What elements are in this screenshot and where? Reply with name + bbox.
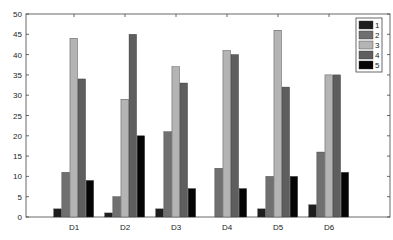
y-tick-label: 25: [13, 112, 22, 121]
legend-swatch: [359, 31, 373, 39]
legend-swatch: [359, 51, 373, 59]
bar: [78, 79, 86, 217]
y-tick-label: 15: [13, 152, 22, 161]
bar: [129, 34, 137, 217]
bar: [137, 136, 145, 217]
x-tick-label: D5: [273, 223, 284, 232]
bar: [317, 152, 325, 217]
y-tick-label: 30: [13, 91, 22, 100]
bar: [70, 38, 78, 217]
bar: [341, 172, 349, 217]
y-tick-label: 10: [13, 172, 22, 181]
bar: [172, 67, 180, 217]
y-tick-label: 45: [13, 30, 22, 39]
bar: [290, 176, 298, 217]
bar: [266, 176, 274, 217]
y-tick-label: 20: [13, 132, 22, 141]
bar: [156, 209, 164, 217]
legend-label: 1: [375, 21, 380, 30]
bar: [180, 83, 188, 217]
bar: [215, 168, 223, 217]
legend-label: 2: [375, 31, 380, 40]
x-tick-label: D4: [222, 223, 233, 232]
bar: [274, 30, 282, 217]
bar: [282, 87, 290, 217]
bar: [121, 99, 129, 217]
legend-swatch: [359, 61, 373, 69]
grouped-bar-chart: 05101520253035404550D1D2D3D4D5D612345: [0, 0, 393, 240]
bar: [113, 197, 121, 217]
bar: [164, 132, 172, 217]
bar: [223, 51, 231, 217]
bar: [54, 209, 62, 217]
y-tick-label: 35: [13, 71, 22, 80]
y-tick-label: 40: [13, 51, 22, 60]
y-tick-label: 50: [13, 10, 22, 19]
legend-swatch: [359, 21, 373, 29]
bar: [62, 172, 70, 217]
legend-label: 5: [375, 61, 380, 70]
bar: [239, 189, 247, 217]
legend-label: 4: [375, 51, 380, 60]
bar: [325, 75, 333, 217]
x-tick-label: D6: [324, 223, 335, 232]
bar: [86, 180, 94, 217]
legend-label: 3: [375, 41, 380, 50]
x-tick-label: D1: [69, 223, 80, 232]
bar: [258, 209, 266, 217]
y-tick-label: 5: [18, 193, 23, 202]
bar: [333, 75, 341, 217]
bar: [309, 205, 317, 217]
bar: [105, 213, 113, 217]
chart-canvas: 05101520253035404550D1D2D3D4D5D612345: [0, 0, 393, 240]
legend-swatch: [359, 41, 373, 49]
bar: [188, 189, 196, 217]
x-tick-label: D2: [120, 223, 131, 232]
bar: [231, 55, 239, 217]
y-tick-label: 0: [18, 213, 23, 222]
x-tick-label: D3: [171, 223, 182, 232]
